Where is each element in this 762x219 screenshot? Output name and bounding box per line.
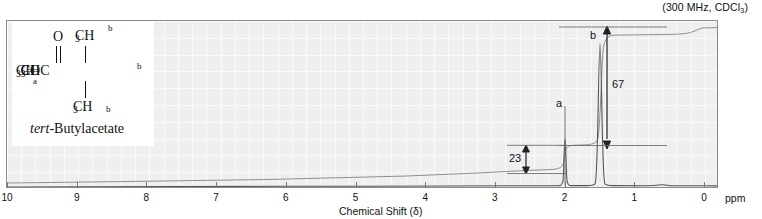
label-b-top: b [108,23,113,33]
axis-tick-3: 3 [492,192,498,203]
double-bond-line-2 [60,46,61,63]
single-bond-down [85,81,86,98]
axis-tick-7: 7 [213,192,219,203]
axis-tick-mark-0 [704,182,705,188]
integral-value-b: 67 [611,78,625,90]
molecular-structure: O CH3 b CH3COC — CH3 a b CH3 b tert-Buty… [12,22,154,146]
axis-tick-mark-2 [565,182,566,188]
double-bond-line-1 [56,46,57,63]
structure-inset: O CH3 b CH3COC — CH3 a b CH3 b tert-Buty… [12,22,154,146]
axis-tick-4: 4 [422,192,428,203]
axis-tick-9: 9 [74,192,80,203]
spectrometer-conditions: (300 MHz, CDCl3) [662,1,748,15]
axis-tick-0: 0 [701,192,707,203]
backbone-label: CH3COC — CH3 [16,63,26,79]
conditions-prefix: (300 MHz, CDCl [662,1,740,13]
x-axis: 109876543210 ppm Chemical Shift (δ) [0,188,762,219]
spectrum-plot-area: O CH3 b CH3COC — CH3 a b CH3 b tert-Buty… [6,20,718,188]
axis-tick-mark-7 [216,182,217,188]
axis-tick-mark-8 [146,182,147,188]
axis-tick-mark-10 [7,182,8,188]
carbonyl-oxygen-label: O [53,29,63,45]
label-b-right: b [137,61,142,71]
axis-tick-mark-9 [77,182,78,188]
methyl-top-label: CH3 [75,28,80,44]
axis-title: Chemical Shift (δ) [339,205,422,217]
axis-tick-mark-5 [356,182,357,188]
methyl-bottom-label: CH3 [73,99,78,115]
axis-tick-6: 6 [283,192,289,203]
conditions-suffix: ) [744,1,748,13]
integral-value-a: 23 [508,152,522,164]
label-b-bottom: b [106,104,111,114]
axis-tick-2: 2 [562,192,568,203]
nmr-spectrum-figure: (300 MHz, CDCl3) [0,0,762,219]
axis-tick-mark-6 [286,182,287,188]
axis-unit-label: ppm [725,192,745,204]
axis-tick-1: 1 [632,192,638,203]
compound-name: tert-Butylacetate [30,121,49,137]
peak-label-a: a [556,97,562,109]
single-bond-up [85,46,86,63]
axis-tick-mark-4 [425,182,426,188]
axis-tick-mark-3 [495,182,496,188]
label-a-structure: a [33,76,37,86]
axis-tick-5: 5 [353,192,359,203]
axis-tick-8: 8 [144,192,150,203]
axis-tick-10: 10 [1,192,12,203]
peak-label-b: b [590,29,596,41]
axis-tick-mark-1 [634,182,635,188]
